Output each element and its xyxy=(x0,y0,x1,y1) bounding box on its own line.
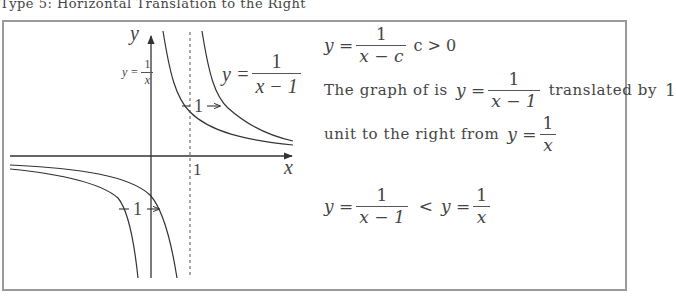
fraction: 1 x xyxy=(473,186,490,227)
fraction: 1 x − 1 xyxy=(356,186,407,227)
tick-label-1: 1 xyxy=(193,160,202,180)
lhs: y = xyxy=(122,65,138,80)
y-axis-label: y xyxy=(130,22,139,45)
denominator: x xyxy=(141,72,153,87)
numerator: 1 xyxy=(356,186,407,206)
numerator: 1 xyxy=(356,25,406,45)
denominator: x xyxy=(473,206,490,227)
lhs: y = xyxy=(324,35,353,55)
lhs: y = xyxy=(507,124,536,144)
x-axis-label: x xyxy=(284,156,293,179)
numerator: 1 xyxy=(473,186,490,206)
denominator: x xyxy=(540,134,557,155)
line2-prefix: unit to the right from xyxy=(324,125,499,143)
lhs: y = xyxy=(222,63,249,86)
lhs: y = xyxy=(441,196,470,216)
lhs: y = xyxy=(324,196,353,216)
denominator: x − 1 xyxy=(488,90,539,111)
explanation-line-2: unit to the right from y = 1 x xyxy=(324,114,559,155)
denominator: x − 1 xyxy=(356,206,407,227)
numerator: 1 xyxy=(252,50,300,73)
curve-label-1-over-x-minus-1: y = 1 x − 1 xyxy=(222,50,304,98)
fraction: 1 x xyxy=(540,114,557,155)
general-form: y = 1 x − c c > 0 xyxy=(324,25,456,66)
denominator: x − c xyxy=(356,45,406,66)
line1-amount: 1 xyxy=(665,80,676,100)
denominator: x − 1 xyxy=(252,73,300,98)
numerator: 1 xyxy=(488,70,539,90)
comparison: y = 1 x − 1 < y = 1 x xyxy=(324,186,493,227)
curve-1-over-x-lower xyxy=(10,169,138,278)
shift-label-top: 1 xyxy=(194,96,203,117)
lhs: y = xyxy=(456,80,485,100)
line1-suffix: translated by xyxy=(549,81,657,99)
fraction: 1 x − 1 xyxy=(488,70,539,111)
condition: c > 0 xyxy=(413,36,456,55)
curve-label-1-over-x: y = 1 x xyxy=(122,58,156,87)
numerator: 1 xyxy=(141,58,153,72)
curve-1-over-x-minus-1-lower xyxy=(10,165,177,278)
numerator: 1 xyxy=(540,114,557,134)
explanation-line-1: The graph of is y = 1 x − 1 translated b… xyxy=(324,70,676,111)
fraction: 1 x xyxy=(141,58,153,87)
fraction: 1 x − c xyxy=(356,25,406,66)
shift-label-bottom: 1 xyxy=(133,199,142,220)
line1-prefix: The graph of is xyxy=(324,81,448,99)
fraction: 1 x − 1 xyxy=(252,50,300,98)
operator: < xyxy=(419,196,433,216)
